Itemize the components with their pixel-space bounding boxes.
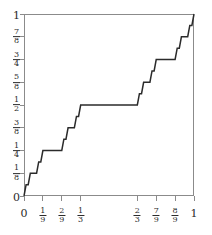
fraction-denominator: 2 bbox=[13, 105, 20, 114]
fraction-numerator: 5 bbox=[13, 73, 20, 81]
x-tick-mark bbox=[175, 196, 176, 201]
y-tick-mark bbox=[20, 196, 24, 197]
y-tick-mark bbox=[20, 127, 24, 128]
y-tick-label: 58 bbox=[13, 73, 20, 91]
y-tick-label: 78 bbox=[13, 28, 20, 46]
x-tick-mark bbox=[61, 196, 62, 201]
x-tick-mark bbox=[194, 196, 195, 201]
fraction-glyph: 78 bbox=[13, 28, 20, 46]
x-tick-mark bbox=[156, 196, 157, 201]
fraction-denominator: 9 bbox=[172, 215, 179, 224]
fraction-numerator: 1 bbox=[13, 96, 20, 104]
y-tick-mark bbox=[20, 105, 24, 106]
y-tick-label: 14 bbox=[13, 142, 20, 160]
y-tick-mark bbox=[20, 36, 24, 37]
x-tick-mark bbox=[24, 196, 25, 201]
fraction-numerator: 3 bbox=[13, 51, 20, 59]
cantor-function-curve bbox=[24, 14, 194, 196]
fraction-glyph: 23 bbox=[134, 207, 141, 225]
fraction-denominator: 9 bbox=[153, 215, 160, 224]
x-tick-label: 79 bbox=[153, 207, 160, 225]
fraction-denominator: 8 bbox=[13, 82, 20, 91]
fraction-denominator: 4 bbox=[13, 150, 20, 159]
x-tick-label: 89 bbox=[172, 207, 179, 225]
y-tick-label: 0 bbox=[13, 188, 20, 204]
figure-canvas: 01929132379891 0181438125834781 bbox=[0, 0, 212, 235]
y-tick-mark bbox=[20, 173, 24, 174]
fraction-numerator: 8 bbox=[172, 207, 179, 215]
fraction-glyph: 29 bbox=[58, 207, 65, 225]
y-tick-mark bbox=[20, 150, 24, 151]
x-tick-label: 1 bbox=[191, 204, 198, 220]
y-tick-mark bbox=[20, 82, 24, 83]
x-tick-label: 13 bbox=[77, 207, 84, 225]
fraction-glyph: 58 bbox=[13, 73, 20, 91]
fraction-denominator: 8 bbox=[13, 36, 20, 45]
x-tick-label: 23 bbox=[134, 207, 141, 225]
fraction-numerator: 1 bbox=[13, 142, 20, 150]
fraction-denominator: 4 bbox=[13, 59, 20, 68]
fraction-denominator: 8 bbox=[13, 127, 20, 136]
y-tick-label: 18 bbox=[13, 164, 20, 182]
fraction-glyph: 19 bbox=[39, 207, 46, 225]
fraction-numerator: 1 bbox=[13, 164, 20, 172]
fraction-glyph: 13 bbox=[77, 207, 84, 225]
y-tick-mark bbox=[20, 14, 24, 15]
fraction-numerator: 7 bbox=[13, 28, 20, 36]
fraction-denominator: 8 bbox=[13, 173, 20, 182]
x-tick-mark bbox=[137, 196, 138, 201]
x-tick-label: 0 bbox=[21, 204, 28, 220]
fraction-numerator: 2 bbox=[134, 207, 141, 215]
fraction-glyph: 38 bbox=[13, 119, 20, 137]
fraction-glyph: 34 bbox=[13, 51, 20, 69]
fraction-denominator: 3 bbox=[77, 215, 84, 224]
fraction-numerator: 2 bbox=[58, 207, 65, 215]
x-tick-mark bbox=[42, 196, 43, 201]
fraction-denominator: 9 bbox=[58, 215, 65, 224]
fraction-denominator: 9 bbox=[39, 215, 46, 224]
y-tick-label: 1 bbox=[13, 6, 20, 22]
integer-glyph: 0 bbox=[13, 191, 20, 204]
integer-glyph: 1 bbox=[13, 9, 20, 22]
x-tick-label: 19 bbox=[39, 207, 46, 225]
x-tick-label: 29 bbox=[58, 207, 65, 225]
y-tick-label: 12 bbox=[13, 96, 20, 114]
x-tick-mark bbox=[80, 196, 81, 201]
integer-glyph: 1 bbox=[191, 207, 198, 220]
fraction-numerator: 7 bbox=[153, 207, 160, 215]
fraction-numerator: 1 bbox=[77, 207, 84, 215]
y-tick-mark bbox=[20, 59, 24, 60]
fraction-denominator: 3 bbox=[134, 215, 141, 224]
fraction-glyph: 79 bbox=[153, 207, 160, 225]
fraction-numerator: 3 bbox=[13, 119, 20, 127]
y-tick-label: 34 bbox=[13, 51, 20, 69]
fraction-numerator: 1 bbox=[39, 207, 46, 215]
integer-glyph: 0 bbox=[21, 207, 28, 220]
fraction-glyph: 14 bbox=[13, 142, 20, 160]
fraction-glyph: 12 bbox=[13, 96, 20, 114]
fraction-glyph: 18 bbox=[13, 164, 20, 182]
y-tick-label: 38 bbox=[13, 119, 20, 137]
curve-path bbox=[24, 14, 194, 196]
fraction-glyph: 89 bbox=[172, 207, 179, 225]
